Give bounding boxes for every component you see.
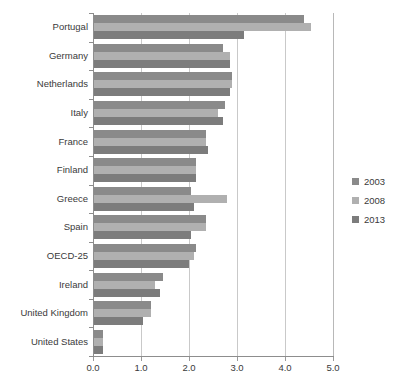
bar <box>93 109 218 117</box>
legend-label: 2013 <box>364 214 385 225</box>
bar-group <box>93 273 333 297</box>
bar <box>93 130 206 138</box>
bar <box>93 289 160 297</box>
bar <box>93 72 232 80</box>
legend-item-2013[interactable]: 2013 <box>352 210 402 229</box>
bar <box>93 281 155 289</box>
cut-off-footer <box>0 379 402 389</box>
bar <box>93 330 103 338</box>
bar <box>93 317 143 325</box>
y-axis-label-ireland: Ireland <box>59 279 88 290</box>
bar-group <box>93 72 333 96</box>
legend-item-2003[interactable]: 2003 <box>352 172 402 191</box>
y-axis-label-finland: Finland <box>57 164 88 175</box>
legend-swatch-icon <box>352 216 359 223</box>
bar <box>93 52 230 60</box>
y-axis-label-italy: Italy <box>71 107 88 118</box>
y-axis-label-portugal: Portugal <box>53 21 88 32</box>
x-axis-tick <box>285 357 286 361</box>
bar <box>93 244 196 252</box>
bar <box>93 158 196 166</box>
x-axis-tick-label: 1.0 <box>126 362 156 373</box>
bar <box>93 203 194 211</box>
x-axis-tick-label: 0.0 <box>78 362 108 373</box>
x-axis-tick-label: 3.0 <box>222 362 252 373</box>
y-axis-label-united-kingdom: United Kingdom <box>20 307 88 318</box>
gridline <box>333 13 334 356</box>
bar-group <box>93 158 333 182</box>
bar <box>93 195 227 203</box>
bar-group <box>93 330 333 354</box>
bar-group <box>93 44 333 68</box>
x-axis-tick-label: 5.0 <box>318 362 348 373</box>
bar <box>93 260 189 268</box>
legend-swatch-icon <box>352 178 359 185</box>
bar-group <box>93 187 333 211</box>
bar <box>93 215 206 223</box>
bar <box>93 146 208 154</box>
bar <box>93 301 151 309</box>
y-axis-label-greece: Greece <box>57 193 88 204</box>
bar <box>93 187 191 195</box>
bar <box>93 273 163 281</box>
x-axis-tick <box>189 357 190 361</box>
y-axis-line <box>93 13 94 356</box>
bar-group <box>93 101 333 125</box>
y-axis-label-netherlands: Netherlands <box>37 78 88 89</box>
x-axis-tick <box>141 357 142 361</box>
bar <box>93 346 103 354</box>
bar-group <box>93 301 333 325</box>
bar <box>93 15 304 23</box>
x-axis-tick <box>333 357 334 361</box>
legend-swatch-icon <box>352 197 359 204</box>
bar <box>93 60 230 68</box>
bar <box>93 231 191 239</box>
legend-label: 2003 <box>364 176 385 187</box>
x-axis-tick-label: 2.0 <box>174 362 204 373</box>
bar <box>93 338 103 346</box>
bar <box>93 80 232 88</box>
legend-item-2008[interactable]: 2008 <box>352 191 402 210</box>
y-axis-label-oecd-25: OECD-25 <box>47 250 88 261</box>
plot-area <box>93 13 333 356</box>
y-axis-label-germany: Germany <box>49 50 88 61</box>
y-axis-label-spain: Spain <box>64 221 88 232</box>
bar <box>93 117 223 125</box>
bar <box>93 138 206 146</box>
legend-label: 2008 <box>364 195 385 206</box>
bar-group <box>93 15 333 39</box>
bar <box>93 223 206 231</box>
bar-group <box>93 244 333 268</box>
bar <box>93 31 244 39</box>
x-axis-tick <box>237 357 238 361</box>
x-axis: 0.01.02.03.04.05.0 <box>93 357 334 377</box>
bar <box>93 252 194 260</box>
bar <box>93 174 196 182</box>
y-axis-label-united-states: United States <box>31 336 88 347</box>
bar <box>93 44 223 52</box>
x-axis-tick <box>93 357 94 361</box>
bar <box>93 88 230 96</box>
y-axis-label-france: France <box>58 136 88 147</box>
bar-group <box>93 130 333 154</box>
x-axis-tick-label: 4.0 <box>270 362 300 373</box>
bar <box>93 101 225 109</box>
bar <box>93 23 311 31</box>
bar-group <box>93 215 333 239</box>
bar-chart: PortugalGermanyNetherlandsItalyFranceFin… <box>0 0 402 389</box>
bar <box>93 166 196 174</box>
bar <box>93 309 151 317</box>
chart-legend: 200320082013 <box>352 172 402 229</box>
